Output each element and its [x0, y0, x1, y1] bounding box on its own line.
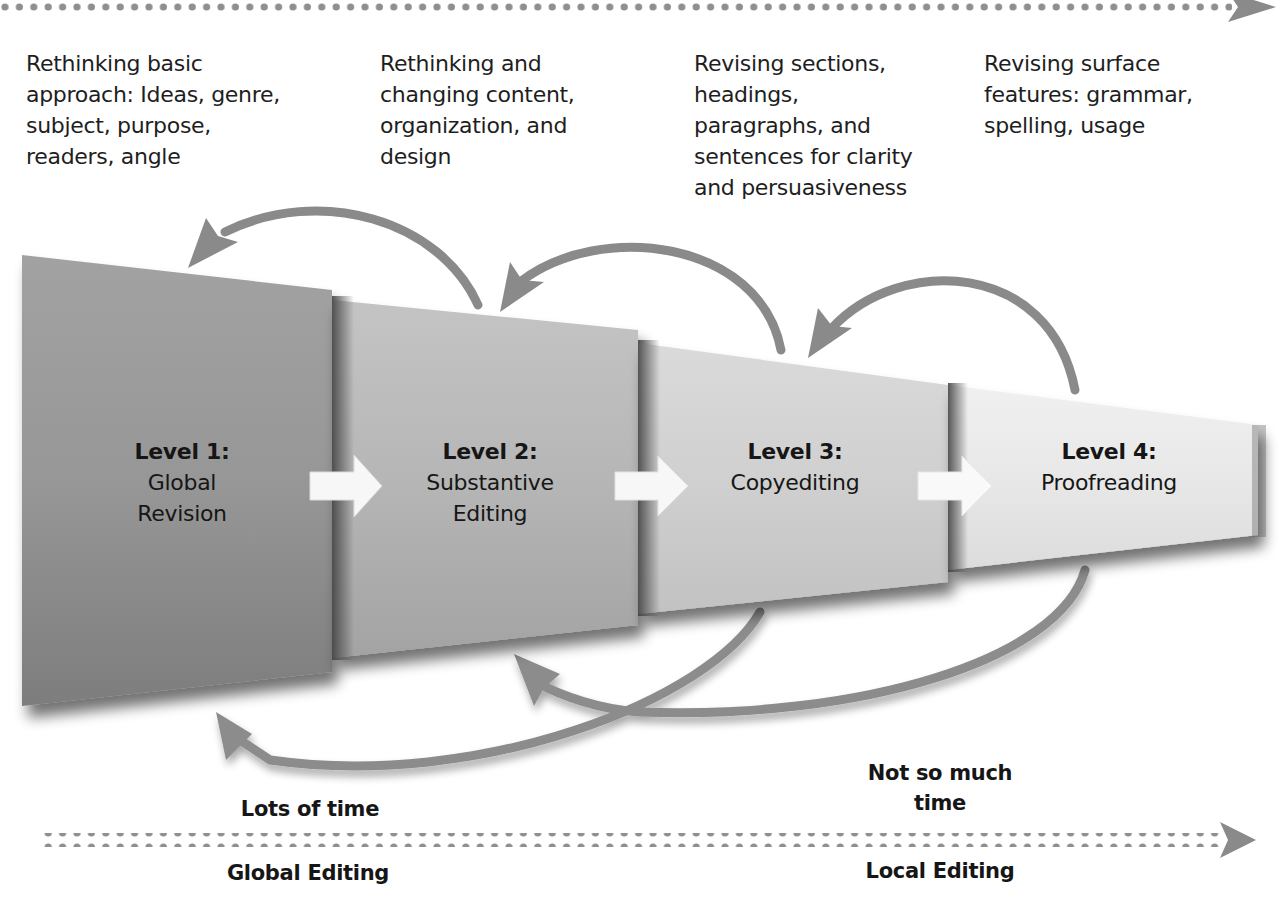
level-1-description: Rethinking basic approach: Ideas, genre,…: [26, 48, 326, 172]
bottom-dotted-arrow: [44, 822, 1256, 858]
level-4-description: Revising surface features: grammar, spel…: [984, 48, 1274, 141]
level-4-name: Proofreading: [1000, 467, 1218, 498]
level-1-label: Level 1: Global Revision: [82, 436, 282, 529]
level-2-label: Level 2: Substantive Editing: [380, 436, 600, 529]
level-3-label: Level 3: Copyediting: [690, 436, 900, 498]
local-editing-label: Local Editing: [840, 856, 1040, 886]
level-2-description: Rethinking and changing content, organiz…: [380, 48, 660, 172]
level-1-name: Global Revision: [82, 467, 282, 529]
time-label-left: Lots of time: [210, 794, 410, 824]
level-3-number: Level 3:: [690, 436, 900, 467]
level-1-number: Level 1:: [82, 436, 282, 467]
level-4-number: Level 4:: [1000, 436, 1218, 467]
top-dotted-arrow: [0, 0, 1276, 22]
level-3-name: Copyediting: [690, 467, 900, 498]
level-4-label: Level 4: Proofreading: [1000, 436, 1218, 498]
level-3-description: Revising sections, headings, paragraphs,…: [694, 48, 974, 203]
level-2-number: Level 2:: [380, 436, 600, 467]
time-label-right: Not so much time: [855, 758, 1025, 818]
level-2-name: Substantive Editing: [380, 467, 600, 529]
global-editing-label: Global Editing: [198, 858, 418, 888]
